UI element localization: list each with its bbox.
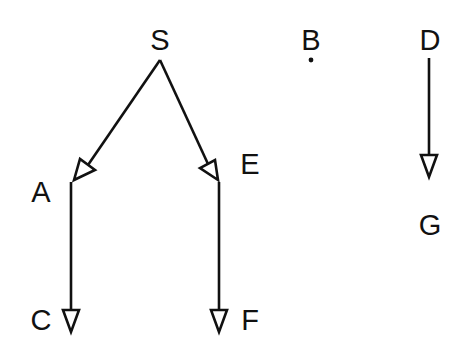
node-label-d: D [420, 24, 441, 56]
node-label-g: G [419, 209, 442, 241]
node-label-e: E [240, 148, 259, 180]
arrowhead-a-icon [74, 159, 95, 180]
node-label-b: B [301, 24, 320, 56]
edge-e-to-f [211, 182, 227, 332]
node-label-f: F [241, 304, 259, 336]
edge-a-to-c [63, 182, 79, 332]
arrowhead-e-icon [200, 160, 218, 180]
node-label-s: S [150, 24, 169, 56]
point-b-icon [309, 58, 314, 63]
edge-d-to-g [421, 58, 437, 177]
edge-s-to-e [160, 60, 218, 180]
node-label-c: C [31, 304, 52, 336]
graph-diagram: S A E C F B D G [0, 0, 468, 346]
arrowhead-g-icon [421, 155, 437, 177]
edge-s-to-a [74, 60, 160, 180]
arrowhead-c-icon [63, 310, 79, 332]
node-label-a: A [31, 176, 51, 208]
arrowhead-f-icon [211, 310, 227, 332]
